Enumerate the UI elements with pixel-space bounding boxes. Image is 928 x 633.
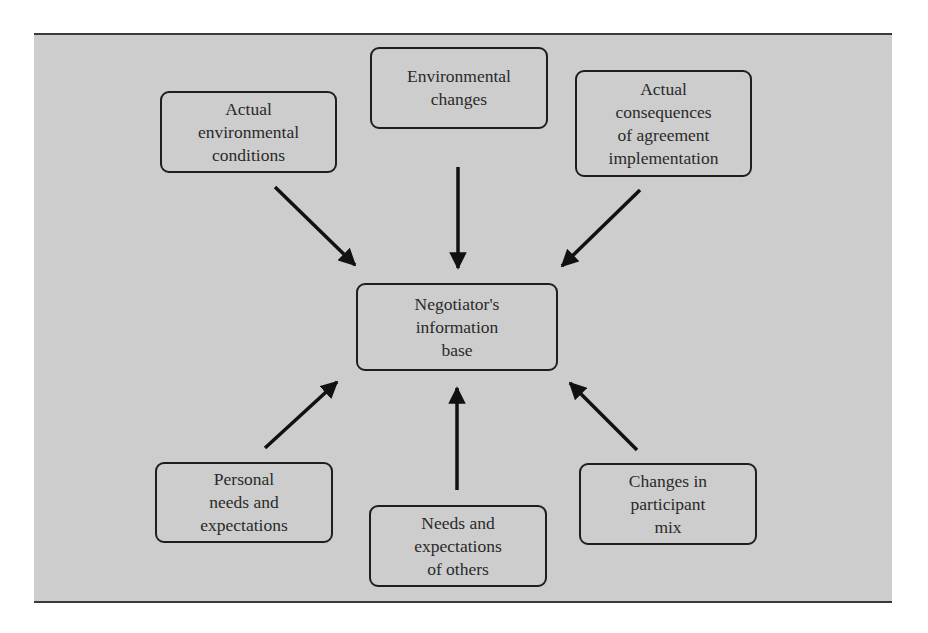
node-line: mix [629, 516, 707, 539]
node-line: participant [629, 493, 707, 516]
node-line: of others [414, 558, 501, 581]
arrow-participant-mix [570, 383, 637, 450]
node-actual-environmental-conditions: Actual environmental conditions [160, 91, 337, 173]
node-line: Needs and [414, 512, 501, 535]
node-line: Actual [198, 98, 299, 121]
node-line: Environmental [407, 65, 511, 88]
arrow-actual-consequences [562, 190, 640, 266]
node-line: Personal [200, 468, 287, 491]
node-negotiators-information-base: Negotiator's information base [356, 283, 558, 371]
node-line: Actual [609, 78, 719, 101]
node-line: implementation [609, 147, 719, 170]
node-line: information [415, 316, 500, 339]
node-participant-mix: Changes in participant mix [579, 463, 757, 545]
arrow-personal-needs [265, 382, 337, 448]
node-line: needs and [200, 491, 287, 514]
node-line: Negotiator's [415, 293, 500, 316]
node-line: Changes in [629, 470, 707, 493]
node-personal-needs: Personal needs and expectations [155, 462, 333, 543]
node-line: environmental [198, 121, 299, 144]
node-needs-of-others: Needs and expectations of others [369, 505, 547, 587]
node-line: changes [407, 88, 511, 111]
arrow-actual-env-conditions [275, 187, 355, 265]
node-line: of agreement [609, 124, 719, 147]
node-line: base [415, 339, 500, 362]
node-line: expectations [200, 514, 287, 537]
node-line: consequences [609, 101, 719, 124]
node-environmental-changes: Environmental changes [370, 47, 548, 129]
node-line: expectations [414, 535, 501, 558]
node-actual-consequences: Actual consequences of agreement impleme… [575, 70, 752, 177]
node-line: conditions [198, 144, 299, 167]
